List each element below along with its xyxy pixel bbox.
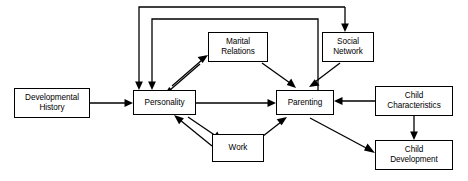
node-work[interactable]: Work — [212, 134, 264, 162]
node-developmental-history[interactable]: Developmental History — [14, 88, 90, 118]
arrowhead-into-child-development-from-parenting — [364, 144, 375, 154]
node-child-characteristics[interactable]: Child Characteristics — [375, 86, 453, 116]
arrowhead-into-parenting-from-child-characteristics — [334, 97, 343, 105]
edge-parenting-to-social-network-feedback — [341, 7, 349, 32]
arrowhead-into-social-network — [341, 24, 349, 33]
edge-social-network-to-parenting — [309, 63, 340, 87]
arrowhead-into-child-development-from-characteristics — [410, 132, 418, 141]
node-child-development-label: Child Development — [389, 145, 439, 165]
node-parenting-label: Parenting — [287, 98, 324, 108]
node-child-characteristics-label: Child Characteristics — [386, 91, 441, 111]
node-developmental-history-label: Developmental History — [24, 93, 80, 113]
arrowhead-into-personality-left — [125, 99, 134, 107]
arrowhead-into-parenting-from-personality — [268, 99, 277, 107]
arrowhead-into-parenting-from-marital — [287, 79, 296, 88]
edge-personality-to-parenting — [196, 99, 276, 107]
node-social-network[interactable]: Social Network — [322, 32, 374, 62]
node-marital-relations[interactable]: Marital Relations — [208, 32, 268, 62]
edge-marital-to-parenting — [262, 63, 296, 88]
edge-child-characteristics-to-child-development — [410, 116, 418, 140]
arrowhead-into-personality-from-work — [174, 115, 184, 124]
arrowhead-into-personality-inner — [148, 82, 156, 91]
edge-dev-history-to-personality — [90, 99, 133, 107]
edge-parenting-to-child-development — [310, 118, 375, 153]
node-social-network-label: Social Network — [332, 37, 364, 57]
node-marital-relations-label: Marital Relations — [220, 37, 256, 57]
node-child-development[interactable]: Child Development — [375, 140, 453, 170]
node-personality-label: Personality — [144, 98, 186, 108]
process-model-diagram: Developmental History Personality Marita… — [0, 0, 468, 181]
node-parenting[interactable]: Parenting — [276, 90, 334, 115]
edge-child-characteristics-to-parenting — [334, 97, 375, 105]
arrowhead-into-personality-outer — [135, 82, 143, 91]
edge-personality-to-marital — [172, 55, 208, 86]
node-work-label: Work — [228, 143, 249, 153]
node-personality[interactable]: Personality — [133, 90, 196, 115]
